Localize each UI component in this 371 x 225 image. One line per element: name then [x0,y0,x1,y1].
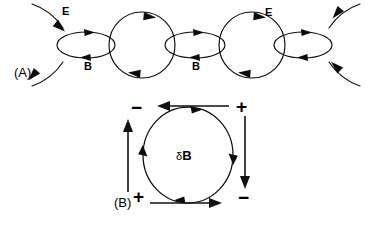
emf-arrow-right [240,116,250,189]
panel-b-label: (B) [114,196,131,209]
panel-a-label: (A) [14,66,31,79]
left-edge-arc-upper [32,4,65,32]
e-field-label-2: E [265,7,272,18]
e-field-loop-2 [219,12,285,78]
charge-sign-bottom-right: − [238,188,249,207]
b-field-label-1: B [84,61,92,72]
b-field-label-2: B [192,61,200,72]
right-edge-arc-lower [329,62,360,86]
left-edge-arc-lower [29,62,64,86]
b-field-loop-2 [165,29,225,61]
charge-sign-bottom-left: + [133,187,144,206]
right-edge-arc-upper [329,4,360,28]
charge-sign-top-left: − [131,98,142,117]
e-field-label-1: E [62,6,69,17]
panel-a-graphics [29,4,361,86]
field-loop-diagram [0,0,371,225]
delta-b-label: δB [176,149,192,162]
figure-root: (A) E E B B (B) δB − + + − [0,0,371,225]
charge-sign-top-right: + [236,97,247,116]
emf-arrow-bottom [150,198,222,208]
emf-arrow-left [123,119,133,192]
b-field-loop-1 [57,29,115,61]
b-symbol: B [182,148,191,163]
